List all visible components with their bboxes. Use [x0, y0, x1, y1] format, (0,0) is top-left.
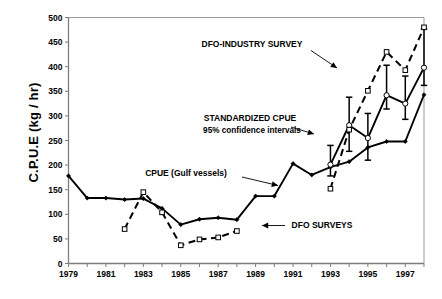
data-point-marker [197, 217, 201, 221]
y-tick-label: 450 [48, 37, 62, 47]
y-tick-label: 50 [53, 234, 63, 244]
y-axis-ticks: 050100150200250300350400450500 [48, 13, 68, 269]
x-tick-label: 1991 [284, 269, 303, 279]
data-series-group [66, 25, 427, 248]
annotation-dfo-surveys: DFO SURVEYS [292, 220, 353, 230]
chart-figure: C.P.U.E (kg / hr) 0501001502002503003504… [0, 0, 442, 299]
data-point-marker [403, 68, 408, 73]
data-point-marker [104, 196, 108, 200]
data-point-marker [366, 89, 371, 94]
x-tick-label: 1987 [209, 269, 228, 279]
annotation-cpue-gulf-vessels: CPUE (Gulf vessels) [145, 168, 227, 178]
data-point-marker [122, 227, 127, 232]
data-point-marker [197, 237, 202, 242]
y-tick-label: 400 [48, 62, 62, 72]
data-point-marker [141, 190, 146, 195]
y-tick-label: 200 [48, 160, 62, 170]
y-tick-label: 250 [48, 136, 62, 146]
y-tick-label: 150 [48, 185, 62, 195]
annotation-arrow-cpue-gulf [242, 177, 278, 187]
data-point-marker [384, 93, 389, 98]
data-point-marker [403, 101, 408, 106]
annotation-standardized-cpue: STANDARDIZED CPUE [204, 113, 297, 123]
x-tick-label: 1985 [171, 269, 190, 279]
annotation-arrow-dfo-industry [311, 51, 337, 69]
x-tick-label: 1993 [321, 269, 340, 279]
chart-plot-area: 050100150200250300350400450500 197919811… [0, 0, 442, 299]
x-axis-ticks: 1979198119831985198719891991199319951997 [59, 264, 424, 280]
x-tick-label: 1997 [396, 269, 415, 279]
data-point-marker [421, 65, 426, 70]
x-tick-label: 1979 [59, 269, 78, 279]
data-point-marker [178, 243, 183, 248]
data-point-marker [384, 50, 389, 55]
data-point-marker [347, 127, 352, 132]
y-tick-label: 300 [48, 111, 62, 121]
data-point-marker [216, 235, 221, 240]
annotation-confidence-intervals: 95% confidence intervals [203, 126, 301, 135]
series-line [330, 27, 424, 188]
data-point-marker [160, 210, 165, 215]
error-bar [421, 29, 427, 86]
series-line [330, 68, 424, 165]
series-dfo-industry-survey [328, 25, 426, 191]
x-tick-label: 1983 [134, 269, 153, 279]
x-tick-label: 1989 [246, 269, 265, 279]
data-point-marker [123, 197, 127, 201]
annotation-dfo-industry-survey: DFO-INDUSTRY SURVEY [202, 39, 303, 49]
y-tick-label: 0 [58, 259, 63, 269]
plot-frame [69, 18, 425, 264]
data-point-marker [328, 162, 333, 167]
y-tick-label: 350 [48, 86, 62, 96]
data-point-marker [328, 186, 333, 191]
y-tick-label: 100 [48, 209, 62, 219]
x-tick-label: 1981 [96, 269, 115, 279]
data-point-marker [365, 135, 370, 140]
data-point-marker [384, 139, 388, 143]
annotation-group: DFO-INDUSTRY SURVEYSTANDARDIZED CPUE95% … [145, 39, 353, 230]
data-point-marker [216, 216, 220, 220]
annotation-arrow-dfo-surveys [262, 223, 285, 229]
x-tick-label: 1995 [358, 269, 377, 279]
data-point-marker [422, 25, 427, 30]
data-point-marker [235, 229, 240, 234]
y-tick-label: 500 [48, 13, 62, 23]
